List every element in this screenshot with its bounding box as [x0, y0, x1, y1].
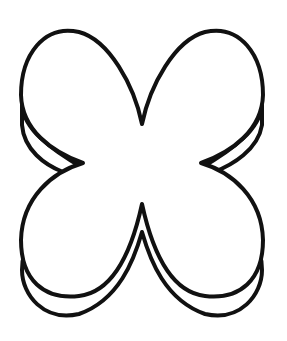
four-petal-flower-drawing [0, 0, 287, 341]
line-art-canvas: four-petal flower outline with offset de… [0, 0, 287, 341]
